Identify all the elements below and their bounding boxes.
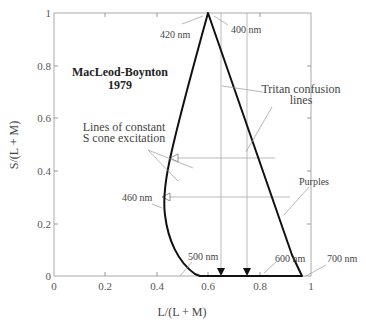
- label-460nm: 460 nm: [122, 192, 153, 203]
- chart-title-line2: 1979: [108, 78, 132, 92]
- y-tick-0: 0: [46, 270, 52, 282]
- macleod-boynton-chart: 0 0.2 0.4 0.6 0.8 1 0 0.2 0.4 0.6 0.8 1 …: [0, 0, 366, 322]
- leader-lines: [148, 16, 326, 276]
- label-constant-s-line2: S cone excitation: [83, 131, 166, 145]
- x-tick-1: 1: [308, 280, 314, 292]
- label-600nm: 600 nm: [275, 253, 306, 264]
- spectral-locus: [164, 13, 302, 276]
- label-500nm: 500 nm: [188, 251, 219, 262]
- arrow-down-icon: [217, 268, 225, 276]
- x-tick-0: 0: [51, 280, 57, 292]
- x-tick-0.2: 0.2: [98, 280, 112, 292]
- x-axis-label: L/(L + M): [158, 305, 207, 319]
- label-700nm: 700 nm: [327, 253, 358, 264]
- y-tick-0.2: 0.2: [37, 218, 51, 230]
- chart-title-line1: MacLeod-Boynton: [72, 65, 168, 79]
- arrow-down-icon: [243, 268, 251, 276]
- tritan-lines: [221, 13, 247, 270]
- y-axis-label: S/(L + M): [7, 121, 21, 169]
- x-tick-0.4: 0.4: [150, 280, 164, 292]
- y-tick-0.8: 0.8: [37, 60, 51, 72]
- y-tick-0.6: 0.6: [37, 112, 51, 124]
- label-420nm: 420 nm: [160, 29, 191, 40]
- arrow-left-icon: [162, 193, 170, 201]
- label-purples: Purples: [299, 176, 329, 187]
- x-tick-0.8: 0.8: [253, 280, 267, 292]
- constant-s-lines: [168, 158, 290, 197]
- x-tick-0.6: 0.6: [201, 280, 215, 292]
- y-tick-0.4: 0.4: [37, 165, 51, 177]
- label-400nm: 400 nm: [231, 24, 262, 35]
- y-tick-1: 1: [46, 7, 52, 19]
- label-tritan-line2: lines: [290, 93, 313, 107]
